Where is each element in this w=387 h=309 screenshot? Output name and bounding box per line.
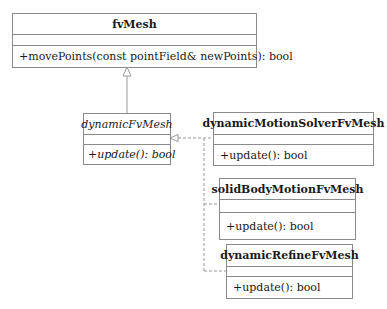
realization-arrow-icon [170, 135, 178, 142]
class-operation: +movePoints(const pointField& newPoints)… [13, 46, 256, 67]
class-dynamicMotionSolverFvMesh: dynamicMotionSolverFvMesh +update(): boo… [213, 112, 374, 166]
class-dynamicFvMesh: dynamicFvMesh +update(): bool [83, 113, 171, 165]
class-name: dynamicRefineFvMesh [227, 245, 352, 267]
class-fvMesh: fvMesh +movePoints(const pointField& new… [12, 13, 257, 68]
class-attributes [220, 200, 355, 213]
class-attributes [84, 135, 170, 145]
class-operation: +update(): bool [227, 277, 352, 298]
class-operation: +update(): bool [84, 145, 170, 164]
class-dynamicRefineFvMesh: dynamicRefineFvMesh +update(): bool [226, 244, 353, 299]
class-operation: +update(): bool [214, 145, 373, 165]
class-operation: +update(): bool [220, 213, 355, 239]
class-attributes [227, 267, 352, 277]
class-name: dynamicFvMesh [84, 114, 170, 135]
class-attributes [13, 35, 256, 46]
generalization-arrow-icon [123, 67, 131, 76]
class-solidBodyMotionFvMesh: solidBodyMotionFvMesh +update(): bool [219, 178, 356, 240]
class-attributes [214, 135, 373, 145]
class-name: dynamicMotionSolverFvMesh [214, 113, 373, 135]
class-name: solidBodyMotionFvMesh [220, 179, 355, 200]
class-name: fvMesh [13, 14, 256, 35]
